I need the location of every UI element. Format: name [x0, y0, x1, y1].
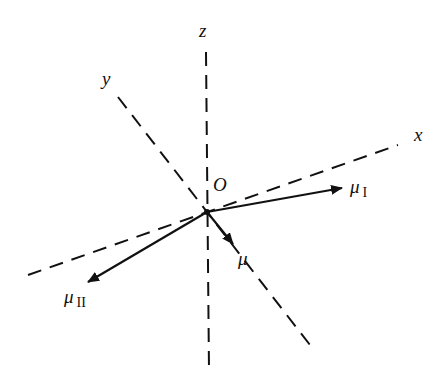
diagram-canvas: z y x O μI μII μ	[0, 0, 444, 391]
x-axis-label: x	[414, 124, 422, 146]
vector-mu-I	[207, 188, 342, 212]
z-axis-label: z	[199, 20, 206, 42]
mu-II-subscript: II	[77, 295, 86, 310]
origin-point	[204, 209, 210, 215]
mu-II-label: μII	[64, 286, 86, 308]
mu-II-symbol: μ	[64, 286, 74, 307]
mu-I-label: μI	[350, 176, 367, 198]
origin-label: O	[213, 174, 227, 196]
mu-I-subscript: I	[363, 185, 368, 200]
mu-label: μ	[238, 248, 248, 270]
y-axis-label: y	[102, 68, 110, 90]
mu-symbol: μ	[238, 248, 248, 269]
vector-mu	[207, 212, 233, 244]
mu-I-symbol: μ	[350, 176, 360, 197]
